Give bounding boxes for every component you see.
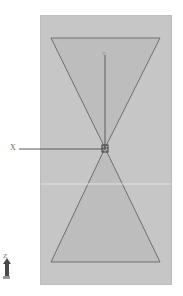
z-axis-label: Z [3, 253, 7, 260]
x-axis-label: X [10, 144, 16, 152]
hourglass-drawing [0, 0, 183, 296]
y-axis-label: Y [102, 51, 106, 56]
lower-triangle[interactable] [51, 148, 160, 262]
z-axis-icon [3, 258, 11, 279]
